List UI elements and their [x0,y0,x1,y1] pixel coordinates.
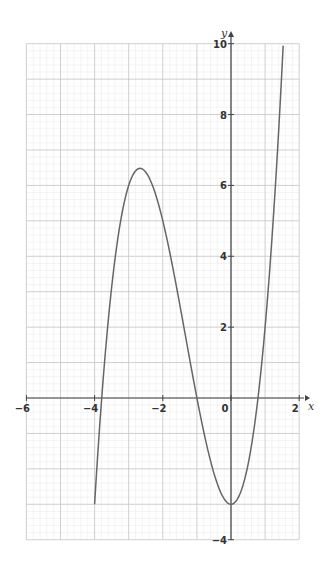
x-tick-label: 0 [222,403,229,414]
x-tick-label: −2 [151,403,166,414]
function-graph: x y −6−4−202−4246810 [0,0,329,568]
x-tick-label: −6 [15,403,30,414]
x-axis-label: x [308,400,315,413]
x-tick-label: 2 [292,403,299,414]
y-tick-label: 8 [220,110,227,121]
x-tick-label: −4 [83,403,98,414]
y-tick-label: 10 [213,39,227,50]
y-tick-label: 6 [220,180,227,191]
y-axis-arrow-icon [228,31,234,37]
y-tick-label: 2 [220,322,227,333]
y-tick-label: −4 [212,535,227,546]
y-tick-label: 4 [220,251,227,262]
